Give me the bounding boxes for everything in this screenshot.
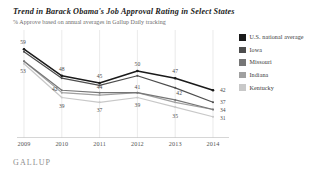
data-point[interactable] (61, 89, 63, 91)
legend-item-label: Missouri (250, 59, 272, 65)
x-axis-tick-label: 2009 (18, 140, 31, 147)
x-axis: 200920102011201220132014 (17, 140, 229, 152)
data-point-label: 42 (220, 87, 226, 93)
data-point[interactable] (174, 101, 176, 103)
data-point[interactable] (61, 77, 63, 79)
x-axis-tick-label: 2014 (207, 140, 220, 147)
chart-legend: U.S. national averageIowaMissouriIndiana… (239, 31, 325, 94)
chart-subtitle: % Approve based on annual averages in Ga… (13, 19, 166, 25)
legend-swatch-icon (239, 47, 246, 54)
data-point-label: 45 (97, 73, 103, 79)
data-point-label: 44 (97, 84, 103, 90)
data-point[interactable] (99, 92, 101, 94)
data-point-label: 53 (20, 68, 26, 74)
data-point-label: 37 (97, 107, 103, 113)
data-point[interactable] (23, 51, 25, 53)
legend-swatch-icon (239, 72, 246, 79)
legend-swatch-icon (239, 84, 246, 91)
data-point[interactable] (23, 60, 25, 62)
x-axis-tick-label: 2011 (93, 140, 106, 147)
data-point[interactable] (61, 96, 63, 98)
data-point-label: 37 (220, 99, 226, 105)
legend-item[interactable]: Indiana (239, 69, 325, 82)
data-point[interactable] (23, 48, 26, 51)
gallup-logo: GALLUP (13, 158, 51, 167)
data-point[interactable] (212, 89, 215, 92)
data-point-label: 48 (59, 66, 65, 72)
data-point-label: 47 (172, 68, 178, 74)
data-point[interactable] (23, 63, 25, 65)
data-point[interactable] (212, 116, 214, 118)
data-point[interactable] (99, 94, 101, 96)
page-title: Trend in Barack Obama's Job Approval Rat… (13, 7, 235, 16)
legend-item[interactable]: Missouri (239, 56, 325, 69)
data-point-label: 42 (176, 90, 182, 96)
data-point-label: 50 (135, 61, 141, 67)
data-point[interactable] (136, 75, 138, 77)
data-point[interactable] (174, 106, 176, 108)
legend-item[interactable]: U.S. national average (239, 31, 325, 44)
data-point[interactable] (99, 101, 101, 103)
data-point-label: 31 (220, 115, 226, 121)
x-axis-tick-label: 2010 (55, 140, 68, 147)
data-point-label: 34 (220, 107, 226, 113)
data-point-label: 39 (59, 103, 65, 109)
line-chart-plot: 595348423945443750413947423542373431 (17, 30, 229, 138)
data-point[interactable] (136, 92, 138, 94)
data-point-label: 41 (135, 84, 141, 90)
data-point[interactable] (174, 99, 176, 101)
x-axis-tick-label: 2012 (131, 140, 144, 147)
chart-svg: 595348423945443750413947423542373431 (17, 30, 229, 138)
data-point[interactable] (212, 109, 214, 111)
legend-item-label: U.S. national average (250, 34, 304, 40)
data-point[interactable] (136, 70, 139, 73)
legend-item-label: Indiana (250, 72, 269, 78)
data-point[interactable] (212, 101, 214, 103)
data-point[interactable] (136, 96, 138, 98)
data-point[interactable] (174, 87, 176, 89)
chart-page: Trend in Barack Obama's Job Approval Rat… (0, 0, 327, 175)
data-point[interactable] (174, 77, 177, 80)
legend-swatch-icon (239, 59, 246, 66)
data-point-label: 42 (52, 86, 58, 92)
data-point-label: 59 (20, 39, 26, 45)
legend-item[interactable]: Kentucky (239, 81, 325, 94)
legend-swatch-icon (239, 34, 246, 41)
legend-item-label: Iowa (250, 47, 263, 53)
data-point-label: 39 (135, 102, 141, 108)
data-point[interactable] (61, 74, 64, 77)
x-axis-tick-label: 2013 (169, 140, 182, 147)
data-point-label: 35 (172, 113, 178, 119)
legend-item[interactable]: Iowa (239, 44, 325, 57)
data-point[interactable] (61, 92, 63, 94)
legend-item-label: Kentucky (250, 85, 274, 91)
